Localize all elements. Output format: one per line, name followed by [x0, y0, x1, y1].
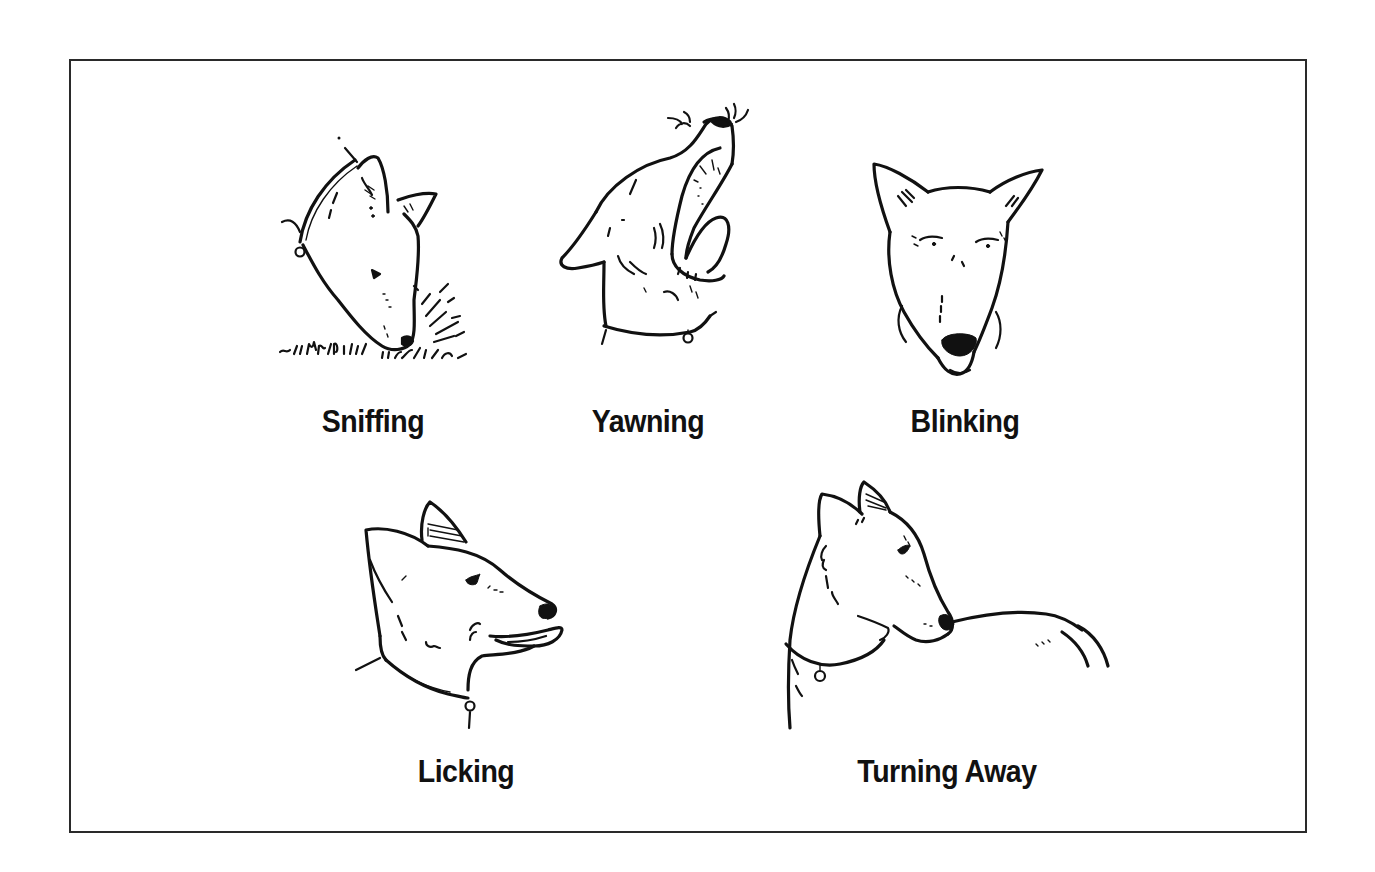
label-turning-away: Turning Away — [841, 754, 1053, 790]
dog-turning-away-illustration — [0, 0, 1375, 872]
